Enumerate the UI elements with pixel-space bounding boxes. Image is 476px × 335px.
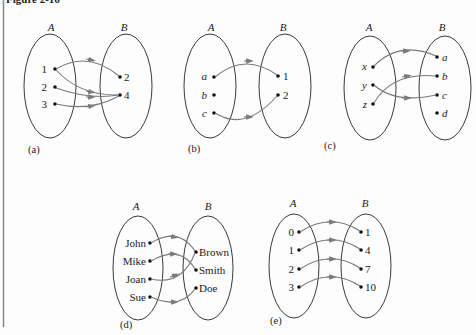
- element: 3: [42, 98, 48, 110]
- panel-caption: (c): [324, 140, 336, 152]
- mapping-arrow: [300, 222, 360, 232]
- element: 4: [365, 244, 371, 256]
- set-a-label: A: [365, 21, 373, 33]
- mapping-arrow: [300, 240, 360, 250]
- element: 2: [124, 71, 130, 83]
- mapping-arrow: [300, 259, 360, 269]
- set-b-label: B: [362, 197, 369, 209]
- element: b: [202, 89, 208, 101]
- element: Smith: [199, 264, 226, 276]
- panel-caption: (e): [270, 315, 282, 327]
- set-b-label: B: [121, 21, 128, 33]
- set-a-label: A: [207, 21, 215, 33]
- panel-e: A B 0 1 2 3 1 4 7 10 (e): [269, 197, 391, 327]
- panel-caption: (a): [28, 144, 40, 156]
- element: 1: [42, 63, 48, 75]
- mapping-arrow: [215, 96, 277, 120]
- element: b: [442, 70, 448, 82]
- figure-canvas: Figure 2-16 A B 1 2 3 2 4 (a) A B a: [0, 0, 476, 335]
- element: John: [125, 237, 146, 249]
- panel-caption: (d): [120, 319, 133, 331]
- mapping-arrow: [151, 236, 195, 251]
- element: 1: [289, 244, 295, 256]
- element: c: [442, 89, 447, 101]
- element: c: [202, 107, 207, 119]
- element: 2: [283, 89, 289, 101]
- element: d: [442, 107, 448, 119]
- set-b-label: B: [280, 21, 287, 33]
- element: 4: [124, 89, 130, 101]
- element: z: [362, 98, 368, 110]
- element: 1: [283, 70, 289, 82]
- element: Sue: [130, 291, 147, 303]
- mapping-arrow: [56, 96, 119, 107]
- element: Doe: [199, 282, 217, 294]
- set-a-label: A: [47, 21, 55, 33]
- element: a: [202, 70, 208, 82]
- set-a-ellipse: [269, 214, 319, 318]
- element: a: [442, 51, 448, 63]
- figure-svg: Figure 2-16 A B 1 2 3 2 4 (a) A B a: [0, 0, 476, 335]
- mapping-arrow: [374, 50, 436, 66]
- panel-caption: (b): [188, 143, 201, 155]
- element: 2: [289, 263, 295, 275]
- element: y: [361, 79, 367, 91]
- set-a-ellipse: [113, 216, 163, 320]
- panel-b: A B a b c 1 2 (b): [184, 21, 311, 155]
- element: 0: [289, 226, 295, 238]
- panel-c: A B x y z a b c d (c): [324, 21, 471, 152]
- panel-a: A B 1 2 3 2 4 (a): [24, 21, 152, 156]
- set-b-ellipse: [100, 34, 152, 138]
- set-b-label: B: [439, 21, 446, 33]
- mapping-arrow: [56, 61, 119, 76]
- element: 2: [42, 81, 48, 93]
- set-b-label: B: [205, 200, 212, 212]
- mapping-arrow: [374, 76, 436, 103]
- element: 3: [289, 281, 295, 293]
- set-a-ellipse: [344, 36, 396, 140]
- set-b-ellipse: [259, 34, 311, 138]
- set-a-ellipse: [184, 34, 236, 138]
- element: Brown: [199, 246, 229, 258]
- element: x: [361, 60, 367, 72]
- element: 1: [365, 226, 371, 238]
- set-a-ellipse: [24, 34, 76, 138]
- mapping-arrow: [300, 277, 360, 287]
- element: Mike: [123, 255, 146, 267]
- set-a-label: A: [289, 197, 297, 209]
- mapping-arrow: [151, 254, 195, 269]
- mapping-arrow: [215, 64, 277, 77]
- element: 10: [365, 281, 377, 293]
- element: 7: [365, 263, 371, 275]
- panel-d: A B John Mike Joan Sue Brown Smith Doe (…: [113, 200, 233, 331]
- figure-title: Figure 2-16: [6, 0, 60, 5]
- element: Joan: [126, 273, 147, 285]
- set-a-label: A: [132, 200, 140, 212]
